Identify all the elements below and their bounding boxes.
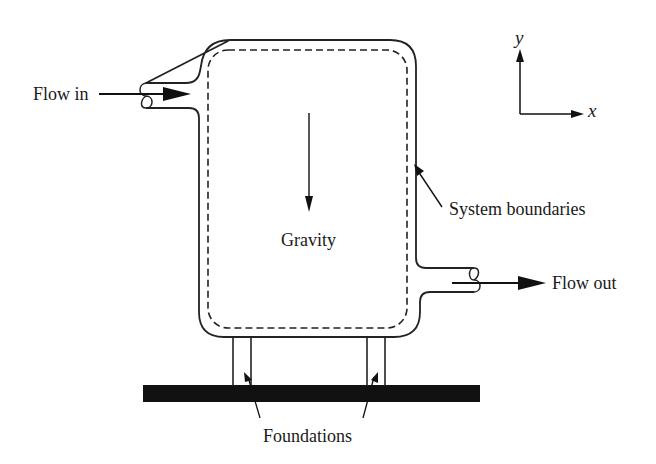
system-boundaries-leader [414,164,442,207]
gravity-label: Gravity [281,231,336,249]
axis-y-label: y [515,28,523,47]
flow-out-label: Flow out [552,274,617,292]
outlet-pipe-break [470,268,481,292]
gravity-arrow [305,113,313,212]
flow-out-arrow [452,276,546,290]
vessel-outline [146,40,474,337]
ground-slab [143,385,480,402]
axis-x-label: x [588,101,596,120]
flow-in-label: Flow in [33,85,89,103]
inlet-pipe-break [140,83,152,108]
system-boundary [208,50,407,328]
coordinate-axes [516,49,584,118]
system-boundaries-label: System boundaries [449,200,586,218]
foundation-legs [233,337,385,386]
foundations-label: Foundations [263,427,352,445]
flow-in-arrow [99,87,191,101]
